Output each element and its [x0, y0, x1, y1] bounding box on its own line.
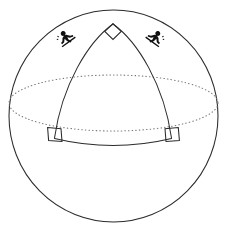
hiker-figure-right	[145, 27, 167, 48]
hiker-figure-left-pole	[55, 35, 60, 40]
hiker-figure-left-body	[55, 27, 77, 48]
right-meridian-arc	[113, 24, 172, 138]
sphere-diagram-canvas	[0, 0, 227, 230]
spherical-triangle-figure	[0, 0, 227, 230]
base-arc	[55, 139, 172, 146]
hiker-figure-right-body	[145, 27, 167, 48]
hiker-figure-left	[55, 27, 77, 48]
equator-ellipse	[9, 75, 218, 131]
hiker-figure-right-pole	[161, 35, 166, 40]
apex-right-angle-marker	[105, 24, 121, 40]
sphere-outline	[9, 10, 218, 222]
